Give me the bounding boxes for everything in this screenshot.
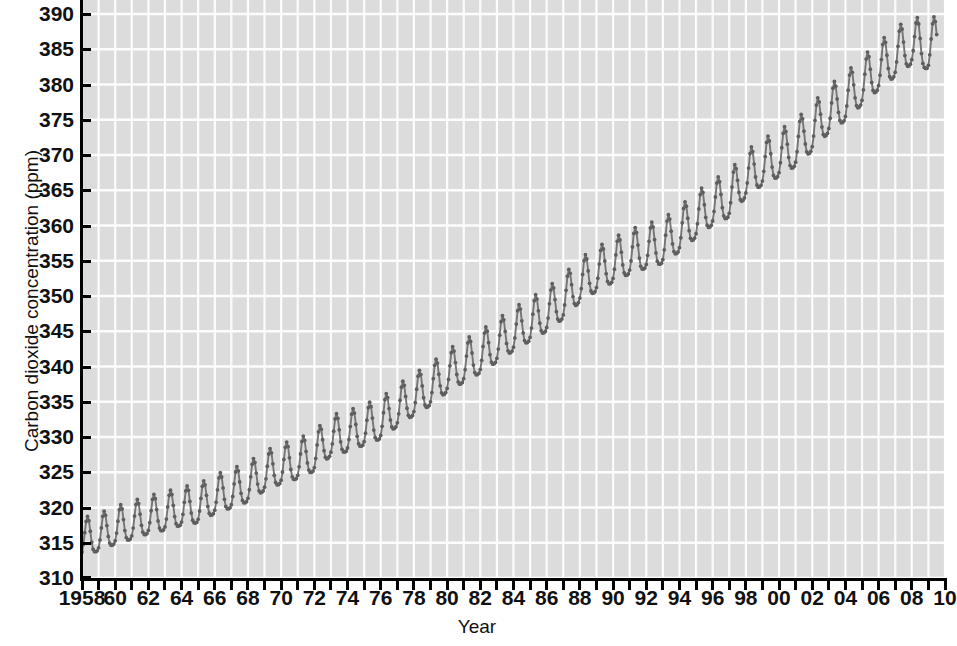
x-tick-label: 98 (734, 586, 757, 610)
x-tick-mark (130, 578, 133, 590)
x-tick-label: 86 (535, 586, 558, 610)
x-tick-mark (628, 578, 631, 590)
x-tick-mark (861, 578, 864, 590)
x-tick-mark (163, 578, 166, 590)
x-tick-mark (695, 578, 698, 590)
x-tick-mark (197, 578, 200, 590)
x-tick-mark (230, 578, 233, 590)
y-tick-mark (80, 225, 91, 228)
x-tick-label: 00 (767, 586, 790, 610)
x-tick-mark (263, 578, 266, 590)
co2-data-series (82, 0, 945, 578)
x-tick-label: 84 (502, 586, 525, 610)
x-tick-label: 06 (867, 586, 890, 610)
y-tick-mark (80, 366, 91, 369)
x-tick-label: 80 (435, 586, 458, 610)
x-tick-mark (827, 578, 830, 590)
y-tick-mark (80, 48, 91, 51)
y-tick-mark (80, 330, 91, 333)
x-tick-label: 94 (668, 586, 691, 610)
x-tick-mark (927, 578, 930, 590)
x-axis-title: Year (0, 616, 954, 638)
x-tick-mark (761, 578, 764, 590)
x-tick-mark (363, 578, 366, 590)
x-tick-label: 74 (336, 586, 359, 610)
x-tick-label: 72 (303, 586, 326, 610)
y-tick-mark (80, 154, 91, 157)
y-tick-mark (80, 295, 91, 298)
x-tick-mark (894, 578, 897, 590)
x-tick-mark (794, 578, 797, 590)
y-tick-mark (80, 84, 91, 87)
x-tick-label: 66 (203, 586, 226, 610)
x-tick-label: 90 (601, 586, 624, 610)
x-tick-mark (396, 578, 399, 590)
x-tick-label: 64 (170, 586, 193, 610)
x-tick-mark (728, 578, 731, 590)
x-tick-mark (462, 578, 465, 590)
y-axis-title: Carbon dioxide concentration (ppm) (21, 101, 43, 501)
x-tick-mark (296, 578, 299, 590)
x-tick-mark (329, 578, 332, 590)
x-tick-label: 62 (137, 586, 160, 610)
x-tick-label: 60 (104, 586, 127, 610)
x-tick-mark (495, 578, 498, 590)
y-axis-line (80, 0, 83, 580)
x-tick-mark (529, 578, 532, 590)
plot-area (82, 0, 945, 578)
y-tick-mark (80, 471, 91, 474)
y-tick-mark (80, 189, 91, 192)
y-tick-mark (80, 13, 91, 16)
x-tick-label: 02 (801, 586, 824, 610)
y-tick-mark (80, 436, 91, 439)
x-tick-label: 96 (701, 586, 724, 610)
x-tick-mark (429, 578, 432, 590)
x-tick-label: 92 (635, 586, 658, 610)
x-tick-label: 08 (900, 586, 923, 610)
x-tick-label: 76 (369, 586, 392, 610)
y-tick-mark (80, 401, 91, 404)
x-tick-mark (562, 578, 565, 590)
y-tick-mark (80, 507, 91, 510)
x-tick-mark (595, 578, 598, 590)
y-axis-title-wrap: Carbon dioxide concentration (ppm) (0, 0, 26, 580)
x-tick-label: 68 (236, 586, 259, 610)
y-tick-mark (80, 542, 91, 545)
x-tick-label: 1958 (59, 586, 106, 610)
x-tick-mark (661, 578, 664, 590)
x-tick-label: 10 (933, 586, 956, 610)
x-tick-label: 04 (834, 586, 857, 610)
x-tick-label: 78 (402, 586, 425, 610)
y-tick-mark (80, 119, 91, 122)
y-tick-mark (80, 260, 91, 263)
x-tick-label: 82 (469, 586, 492, 610)
x-tick-label: 88 (568, 586, 591, 610)
x-tick-label: 70 (269, 586, 292, 610)
